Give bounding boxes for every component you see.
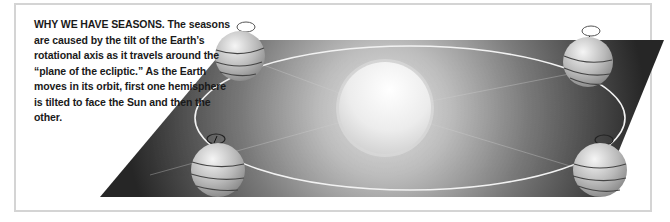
sun-icon — [336, 59, 434, 157]
figure-caption: WHY WE HAVE SEASONS. The seasons are cau… — [34, 17, 234, 126]
caption-title: WHY WE HAVE SEASONS. — [34, 18, 165, 30]
earth-globe-icon — [563, 26, 613, 87]
caption-line: tilted to face the Sun and — [45, 96, 167, 108]
